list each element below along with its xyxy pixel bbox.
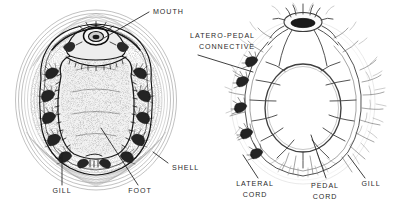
label-gill-right: GILL (361, 180, 380, 188)
label-pedal-cord-line2: CORD (313, 193, 338, 201)
mouth-leader-line (104, 12, 149, 38)
label-pedal-cord-line1: PEDAL (311, 182, 339, 190)
pedal-cord-ring (265, 30, 341, 168)
gill-right-leader-line (348, 155, 365, 178)
label-mouth: MOUTH (153, 8, 184, 16)
ventral-anatomy-panel: MOUTH SHELL GILL FOOT (0, 0, 397, 204)
label-lateral-cord-line1: LATERAL (236, 180, 274, 188)
label-shell: SHELL (172, 164, 199, 172)
label-gill-left: GILL (52, 187, 71, 195)
label-latero-pedal-line1: LATERO-PEDAL (190, 32, 255, 40)
label-lateral-cord-line2: CORD (243, 191, 268, 199)
latero-pedal-leader-line (198, 55, 253, 72)
label-foot: FOOT (128, 187, 152, 195)
gill-tufts-right (231, 52, 263, 161)
latero-pedal-connectives (250, 62, 356, 158)
figure-root: MOUTH SHELL GILL FOOT (0, 0, 397, 204)
circumoral-nerve-ring (268, 3, 338, 45)
label-latero-pedal-line2: CONNECTIVE (199, 43, 255, 51)
